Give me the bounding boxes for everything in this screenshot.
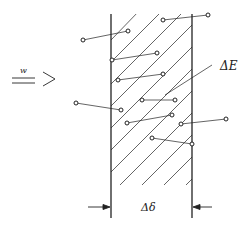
particle-9: [150, 136, 194, 146]
heat-transfer-layer-diagram: ΔE w Δδ: [0, 0, 247, 227]
hatched-layer: [111, 8, 195, 202]
particle-6: [140, 98, 177, 102]
flow-arrow-icon: [12, 72, 55, 86]
thickness-label: Δδ: [140, 201, 156, 214]
particle-2: [161, 13, 210, 22]
particle-7: [125, 113, 174, 125]
particle-4: [116, 72, 165, 82]
particle-5: [74, 101, 123, 112]
energy-leader-line: [165, 65, 212, 95]
particles: [74, 13, 228, 146]
energy-label: ΔE: [219, 59, 238, 73]
flow-label: w: [20, 66, 27, 75]
particle-1: [81, 29, 130, 42]
